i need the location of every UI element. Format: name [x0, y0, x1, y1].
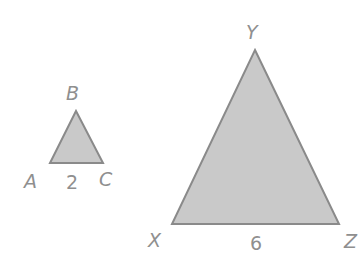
label-vertex-b: B: [66, 82, 79, 104]
geometry-figure: A B C 2 X Y Z 6: [0, 0, 363, 261]
label-vertex-a: A: [22, 170, 37, 192]
label-vertex-x: X: [147, 229, 162, 251]
label-vertex-z: Z: [343, 230, 358, 252]
label-side-ac-length: 2: [66, 171, 78, 193]
label-side-xz-length: 6: [250, 232, 262, 254]
label-vertex-y: Y: [246, 21, 259, 43]
label-vertex-c: C: [99, 168, 113, 190]
similar-triangles-canvas: A B C 2 X Y Z 6: [0, 0, 363, 261]
